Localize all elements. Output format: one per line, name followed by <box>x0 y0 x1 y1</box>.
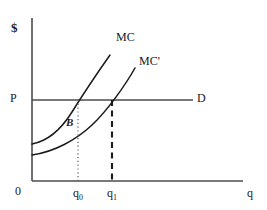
price-axis-label: P <box>10 92 17 104</box>
x-axis-label: q <box>247 187 253 199</box>
mc-prime-curve <box>32 68 135 155</box>
q1-tick-label: q1 <box>107 187 117 202</box>
region-b-label: B <box>66 117 73 128</box>
q0-tick-label: q0 <box>73 187 83 202</box>
q0-subscript: 0 <box>79 193 83 202</box>
economics-figure: $ MC MC' P D B 0 q0 q1 q <box>0 0 267 210</box>
demand-curve-label: D <box>197 92 206 104</box>
origin-label: 0 <box>15 185 21 197</box>
mc-prime-curve-label: MC' <box>139 55 160 67</box>
q1-subscript: 1 <box>113 193 117 202</box>
mc-curve-label: MC <box>116 31 135 43</box>
y-axis-label: $ <box>11 21 18 34</box>
